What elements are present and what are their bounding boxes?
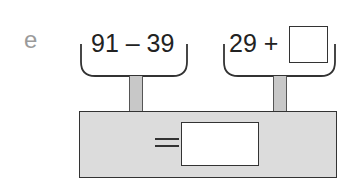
right-post	[273, 76, 287, 112]
left-post	[129, 76, 143, 112]
left-expression: 91 – 39	[91, 31, 174, 56]
right-expression: 29 +	[229, 31, 278, 56]
answer-box[interactable]	[181, 122, 259, 166]
right-blank-box[interactable]	[289, 26, 328, 63]
equals-sign	[155, 138, 179, 148]
